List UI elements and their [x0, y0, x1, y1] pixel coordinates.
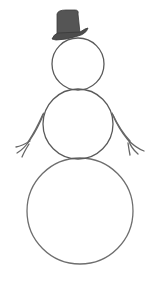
base-snowball — [27, 158, 133, 264]
body-snowball — [43, 89, 113, 159]
snowman-drawing — [0, 0, 162, 282]
left-arm-stick-icon — [16, 113, 44, 157]
top-hat-icon — [52, 10, 88, 40]
head-snowball — [52, 38, 104, 90]
right-arm-stick-icon — [112, 113, 144, 155]
